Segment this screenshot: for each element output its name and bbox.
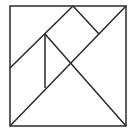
upper-diagonal [10,6,73,68]
square-piece-right-edge [73,6,99,34]
tangram-lines [10,6,126,126]
main-diagonal [10,6,126,126]
tangram-diagram [0,0,131,137]
